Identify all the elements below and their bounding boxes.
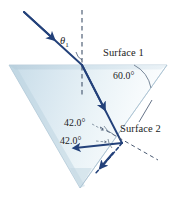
incident-ray-arrow — [24, 12, 53, 39]
theta1-label: θ1 — [60, 36, 69, 49]
leader-surface-2 — [139, 100, 152, 122]
reflected-angle-label: 42.0° — [60, 136, 82, 146]
surface-2-label: Surface 2 — [120, 124, 161, 135]
surface-1-label: Surface 1 — [103, 48, 144, 59]
incident-ray — [24, 12, 82, 65]
internal-angle-label: 42.0° — [64, 118, 86, 128]
prism-top-face — [9, 65, 167, 70]
theta1-subscript: 1 — [65, 41, 69, 49]
prism-tip-shade — [70, 168, 92, 188]
apex-angle-label: 60.0° — [113, 71, 135, 81]
angle-arc-theta1 — [76, 52, 82, 60]
figure-canvas — [0, 0, 177, 197]
optics-figure: θ1 Surface 1 60.0° 42.0° 42.0° Surface 2 — [0, 0, 177, 197]
